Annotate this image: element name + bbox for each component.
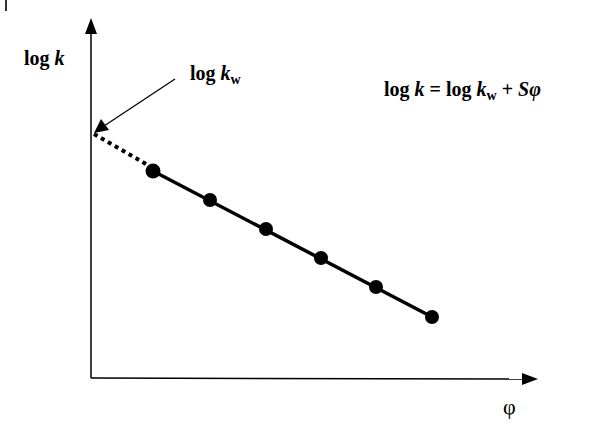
extrapolation-line [94,134,153,168]
x-axis [91,378,524,379]
regression-line [153,171,434,318]
data-point [314,251,328,265]
y-axis-arrowhead [85,18,97,34]
retention-plot [0,0,591,434]
intercept-arrow-shaft [104,79,175,126]
data-point [425,310,439,324]
y-axis-label: log k [24,47,65,70]
data-point [259,222,273,236]
data-point [203,193,217,207]
data-point [146,164,161,179]
intercept-arrowhead [94,119,109,133]
x-axis-label: φ [503,394,516,420]
x-axis-arrowhead [522,373,538,385]
equation-label: log k = log kw + Sφ [384,78,541,104]
intercept-label: log kw [190,62,241,88]
data-point [369,280,383,294]
